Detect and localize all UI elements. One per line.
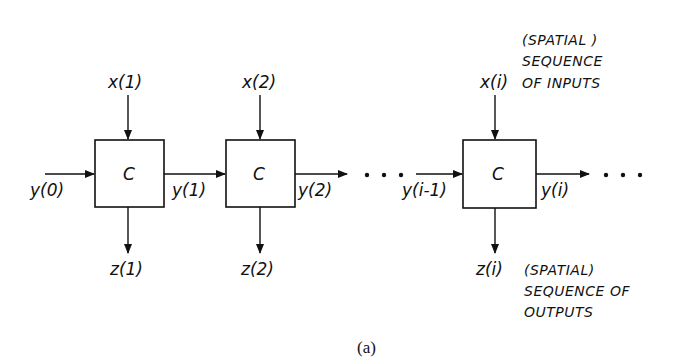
label-y1: y(1) xyxy=(171,180,206,200)
outputs-note: (SPATIAL) SEQUENCE OF OUTPUTS xyxy=(524,262,630,320)
outputs-note-line-2: SEQUENCE OF xyxy=(524,283,630,299)
label-xi: x(i) xyxy=(479,72,508,92)
label-z1: z(1) xyxy=(109,259,143,279)
label-z2: z(2) xyxy=(240,259,274,279)
outputs-note-line-3: OUTPUTS xyxy=(524,304,593,320)
cell-1-label: C xyxy=(123,164,135,184)
cell-2: C xyxy=(164,95,347,253)
ellipsis-dots-right xyxy=(604,173,642,177)
label-x1: x(1) xyxy=(107,72,142,92)
cell-i: C xyxy=(416,95,589,253)
cell-i-label: C xyxy=(492,164,504,184)
label-x2: x(2) xyxy=(241,72,276,92)
systolic-array-diagram: C C C y(0) y(1) y(2) y(i-1) y(i) x(1) xyxy=(0,0,696,363)
figure-caption: (a) xyxy=(357,338,376,357)
label-yi: y(i) xyxy=(540,180,569,200)
inputs-note-line-3: OF INPUTS xyxy=(522,75,601,91)
label-y-i-minus-1: y(i-1) xyxy=(401,180,447,200)
outputs-note-line-1: (SPATIAL) xyxy=(524,262,595,278)
label-zi: z(i) xyxy=(475,259,503,279)
ellipsis-dots-middle xyxy=(365,173,403,177)
label-y0: y(0) xyxy=(29,180,64,200)
label-y2: y(2) xyxy=(297,180,332,200)
cell-1: C xyxy=(45,95,164,253)
cell-2-label: C xyxy=(253,164,265,184)
inputs-note-line-1: (SPATIAL ) xyxy=(522,32,598,48)
inputs-note-line-2: SEQUENCE xyxy=(522,53,603,69)
inputs-note: (SPATIAL ) SEQUENCE OF INPUTS xyxy=(522,32,603,91)
